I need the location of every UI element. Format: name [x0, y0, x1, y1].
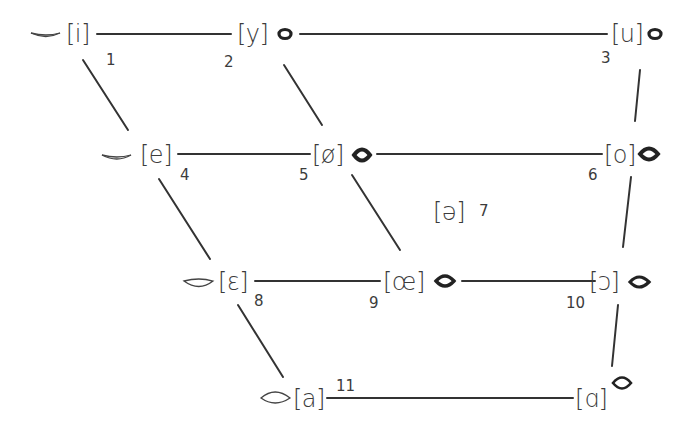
lips-spread-icon	[102, 155, 131, 159]
line-eps-a	[238, 305, 283, 377]
line-u-o	[635, 70, 640, 121]
vowel-alpha: [ɑ]	[575, 387, 607, 411]
lips-rounded-icon	[354, 150, 370, 161]
line-open-o-alpha	[612, 305, 618, 366]
line-oe-oe	[352, 175, 400, 250]
lips-open-rounded-icon	[613, 378, 631, 389]
connection-lines	[0, 0, 677, 433]
vowel-number-10: 10	[566, 296, 585, 311]
vowel-e: [e]	[140, 143, 172, 167]
vowel-a: [a]	[293, 387, 325, 411]
lips-rounded-icon	[630, 277, 649, 287]
vowel-i: [i]	[66, 22, 90, 46]
vowel-number-6: 6	[588, 168, 598, 183]
vowel-open-e: [ɛ]	[218, 270, 248, 294]
vowel-number-7: 7	[479, 204, 489, 219]
vowel-number-8: 8	[254, 294, 264, 309]
vowel-diagram: [i] [y] [u] [e] [ø] [o] [ə] [ɛ] [œ] [ɔ] …	[0, 0, 677, 433]
vowel-y: [y]	[237, 22, 268, 46]
lips-spread-icon	[31, 33, 60, 37]
line-y-oe	[284, 65, 322, 125]
lips-rounded-icon	[279, 30, 291, 39]
vowel-open-o: [ɔ]	[589, 270, 619, 294]
vowel-number-3: 3	[601, 51, 611, 66]
vowel-number-1: 1	[106, 53, 116, 68]
vowel-o-slash: [ø]	[312, 143, 344, 167]
lips-rounded-icon	[649, 30, 661, 39]
lips-open-icon	[261, 392, 290, 403]
lips-rounded-icon	[640, 149, 658, 160]
vowel-number-11: 11	[336, 379, 355, 394]
lips-half-open-icon	[184, 279, 213, 287]
vowel-number-9: 9	[369, 296, 379, 311]
lips-rounded-icon	[436, 276, 454, 286]
vowel-number-4: 4	[180, 168, 190, 183]
vowel-schwa: [ə]	[433, 200, 465, 224]
vowel-number-2: 2	[224, 55, 234, 70]
line-i-e	[83, 60, 128, 130]
line-o-open-o	[623, 177, 631, 247]
vowel-number-5: 5	[299, 168, 309, 183]
vowel-u: [u]	[611, 22, 643, 46]
vowel-o: [o]	[604, 143, 636, 167]
line-e-eps	[159, 179, 210, 259]
vowel-oe-ligature: [œ]	[383, 270, 425, 294]
